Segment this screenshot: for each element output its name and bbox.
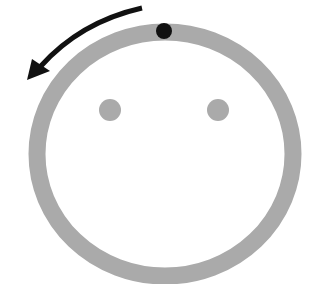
left-eye: [99, 99, 121, 121]
right-eye: [207, 99, 229, 121]
face-ring: [37, 32, 293, 276]
position-marker-dot: [156, 23, 172, 39]
rotation-diagram: [0, 0, 315, 284]
